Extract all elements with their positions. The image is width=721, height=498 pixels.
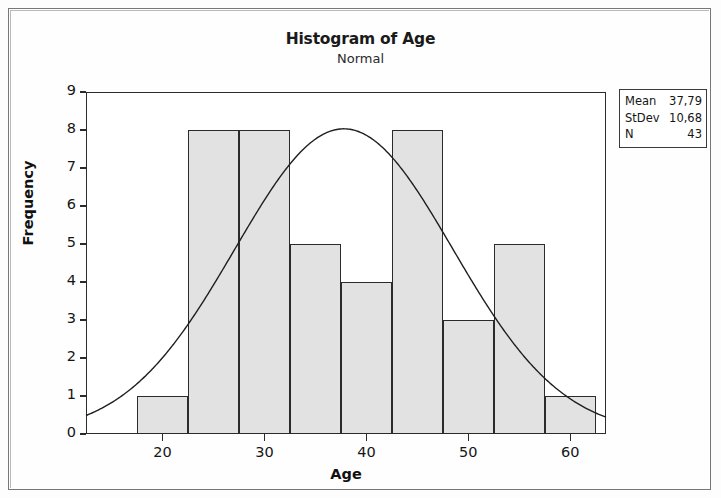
histogram-screenshot: Histogram of Age Normal 0123456789 20304…: [0, 0, 721, 498]
stats-value: 43: [687, 126, 702, 143]
x-tick-label: 20: [140, 444, 184, 460]
stats-row: StDev10,68: [625, 110, 702, 127]
y-tick-label: 1: [46, 386, 76, 402]
y-tick-mark: [80, 129, 86, 130]
x-tick-mark: [366, 434, 367, 441]
x-tick-mark: [570, 434, 571, 441]
stats-key: N: [625, 126, 640, 143]
y-tick-mark: [80, 205, 86, 206]
x-tick-label: 30: [242, 444, 286, 460]
x-tick-mark: [468, 434, 469, 441]
stats-key: StDev: [625, 110, 666, 127]
y-tick-mark: [80, 357, 86, 358]
x-tick-mark: [162, 434, 163, 441]
stats-value: 37,79: [669, 93, 702, 110]
stats-value: 10,68: [669, 110, 702, 127]
y-tick-label: 8: [46, 120, 76, 136]
y-tick-label: 9: [46, 82, 76, 98]
chart-title: Histogram of Age: [0, 30, 721, 48]
x-tick-mark: [264, 434, 265, 441]
stats-key: Mean: [625, 93, 662, 110]
y-tick-mark: [80, 243, 86, 244]
y-tick-label: 5: [46, 234, 76, 250]
y-tick-mark: [80, 91, 86, 92]
x-axis-title: Age: [286, 466, 406, 482]
chart-subtitle: Normal: [0, 51, 721, 66]
y-tick-label: 4: [46, 272, 76, 288]
y-tick-mark: [80, 281, 86, 282]
y-tick-label: 7: [46, 158, 76, 174]
y-tick-label: 3: [46, 310, 76, 326]
x-tick-label: 40: [344, 444, 388, 460]
y-tick-label: 2: [46, 348, 76, 364]
y-tick-label: 0: [46, 424, 76, 440]
y-tick-mark: [80, 319, 86, 320]
y-tick-mark: [80, 167, 86, 168]
x-tick-label: 60: [548, 444, 592, 460]
stats-legend-box: Mean37,79StDev10,68N43: [619, 89, 707, 148]
y-tick-mark: [80, 395, 86, 396]
y-tick-label: 6: [46, 196, 76, 212]
x-tick-label: 50: [446, 444, 490, 460]
y-tick-mark: [80, 433, 86, 434]
y-axis-title: Frequency: [20, 123, 36, 283]
stats-row: N43: [625, 126, 702, 143]
stats-row: Mean37,79: [625, 93, 702, 110]
normal-curve: [86, 92, 606, 434]
